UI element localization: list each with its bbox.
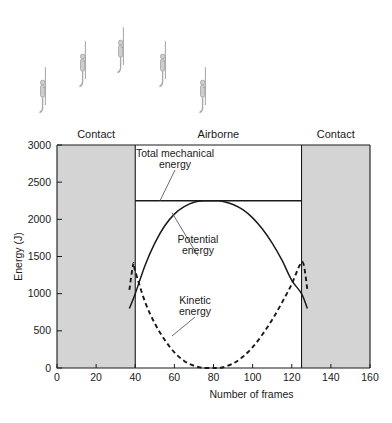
y-tick-label-2500: 2500 xyxy=(28,176,52,188)
jumper-legs xyxy=(39,97,42,113)
x-tick-label-20: 20 xyxy=(90,371,102,383)
plot-area: ContactAirborneContact 02040608010012014… xyxy=(12,128,379,400)
kinetic-energy-leader-line xyxy=(172,317,195,336)
y-tick-label-0: 0 xyxy=(45,362,51,374)
zone-label-airborne-1: Airborne xyxy=(198,128,240,140)
jumper-figure-4 xyxy=(159,41,165,86)
jumper-head xyxy=(118,40,123,45)
jumper-figure-3 xyxy=(117,27,123,72)
data-series xyxy=(129,201,307,368)
energy-figure: ContactAirborneContact 02040608010012014… xyxy=(0,0,392,423)
figure-svg: ContactAirborneContact 02040608010012014… xyxy=(0,0,392,423)
jumper-head xyxy=(200,80,205,85)
contact-band-0 xyxy=(57,145,135,368)
y-tick-label-1500: 1500 xyxy=(28,250,52,262)
x-tick-label-160: 160 xyxy=(361,371,379,383)
jumper-figure-2 xyxy=(79,41,85,86)
x-tick-label-120: 120 xyxy=(283,371,301,383)
jumper-head xyxy=(40,80,45,85)
jumper-legs xyxy=(159,71,162,87)
y-tick-label-500: 500 xyxy=(33,324,51,336)
contact-band-2 xyxy=(302,145,370,368)
x-tick-label-100: 100 xyxy=(244,371,262,383)
x-tick-label-60: 60 xyxy=(169,371,181,383)
y-axis-title: Energy (J) xyxy=(12,232,24,280)
total-mechanical-energy-leader-line xyxy=(160,170,175,201)
jumper-legs xyxy=(79,71,82,87)
series-potential-energy xyxy=(129,201,307,309)
x-tick-label-40: 40 xyxy=(129,371,141,383)
series-kinetic-energy xyxy=(129,262,307,368)
y-tick-label-3000: 3000 xyxy=(28,139,52,151)
jumper-head xyxy=(160,54,165,59)
x-tick-label-140: 140 xyxy=(322,371,340,383)
zone-label-contact-0: Contact xyxy=(77,128,115,140)
contact-shaded-bands xyxy=(57,145,370,368)
y-tick-label-2000: 2000 xyxy=(28,213,52,225)
potential-energy-label-line2: energy xyxy=(182,244,215,256)
jumper-figure-5 xyxy=(199,67,205,112)
jumper-legs xyxy=(199,97,202,113)
x-tick-label-0: 0 xyxy=(54,371,60,383)
zone-label-contact-2: Contact xyxy=(317,128,355,140)
kinetic-energy-label-line2: energy xyxy=(179,305,212,317)
jumper-figure-1 xyxy=(39,67,45,112)
y-tick-label-1000: 1000 xyxy=(28,287,52,299)
total-mechanical-energy-label-line2: energy xyxy=(159,158,192,170)
x-axis-title: Number of frames xyxy=(209,388,293,400)
series-annotations: Total mechanicalenergyPotentialenergyKin… xyxy=(136,147,219,336)
jumper-sequence-illustration xyxy=(39,27,205,112)
jumper-legs xyxy=(117,57,120,73)
jumper-head xyxy=(80,54,85,59)
zone-labels: ContactAirborneContact xyxy=(77,128,355,140)
x-tick-label-80: 80 xyxy=(208,371,220,383)
